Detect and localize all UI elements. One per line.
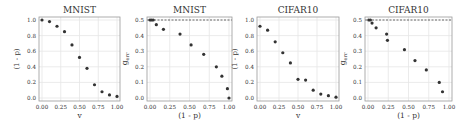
data-point <box>319 93 322 96</box>
chart-title: MNIST <box>173 5 206 15</box>
data-point <box>441 90 444 93</box>
data-point <box>334 96 337 99</box>
x-axis-label: v <box>295 111 301 120</box>
data-point <box>108 93 111 96</box>
data-point <box>162 28 165 31</box>
y-tick-label: 0.4 <box>245 64 254 70</box>
data-point <box>63 30 66 33</box>
y-tick-label: 0.1 <box>135 79 144 85</box>
data-point <box>386 39 389 42</box>
x-tick-label: 0.25 <box>273 104 286 110</box>
data-point <box>220 75 223 78</box>
data-point <box>438 81 441 84</box>
x-tick-label: 0.25 <box>382 104 395 110</box>
data-point <box>327 94 330 97</box>
data-point <box>202 53 205 56</box>
x-tick-label: 0.75 <box>311 104 324 110</box>
data-point <box>78 56 81 59</box>
data-point <box>281 51 284 54</box>
data-point <box>304 78 307 81</box>
y-tick-label: 0.5 <box>135 17 144 23</box>
chart-title: CIFAR10 <box>278 5 319 15</box>
data-point <box>48 20 51 23</box>
y-tick-label: 0.6 <box>245 48 254 54</box>
y-tick-label: 0.6 <box>27 48 36 54</box>
y-tick-label: 0.8 <box>27 33 36 39</box>
y-axis-label: gerr <box>120 52 130 65</box>
data-point <box>413 59 416 62</box>
x-axis-label: v <box>76 111 82 120</box>
data-point <box>85 67 88 70</box>
x-tick-label: 0.00 <box>36 104 49 110</box>
x-tick-label: 1.00 <box>443 104 456 110</box>
x-tick-label: 0.25 <box>55 104 68 110</box>
data-point <box>100 90 103 93</box>
subplot-2: 0.000.250.500.751.000.00.10.20.30.40.5MN… <box>120 5 236 120</box>
y-axis-label: gerr <box>338 52 348 65</box>
figure: 0.000.250.500.751.000.00.20.40.60.81.0MN… <box>0 0 471 124</box>
x-tick-label: 0.75 <box>92 104 105 110</box>
data-point <box>226 87 229 90</box>
data-point <box>312 89 315 92</box>
data-point <box>370 22 373 25</box>
y-tick-label: 0.4 <box>353 33 362 39</box>
chart-canvas: 0.000.250.500.751.000.00.20.40.60.81.0MN… <box>0 0 471 124</box>
x-tick-label: 0.00 <box>362 104 375 110</box>
data-point <box>266 29 269 32</box>
data-point <box>189 43 192 46</box>
y-tick-label: 0.2 <box>353 64 362 70</box>
y-tick-label: 0.2 <box>245 79 254 85</box>
data-point <box>155 23 158 26</box>
subplot-3: 0.000.250.500.751.000.00.20.40.60.81.0CI… <box>231 5 343 120</box>
data-point <box>403 48 406 51</box>
y-tick-label: 0.0 <box>135 95 144 101</box>
y-tick-label: 0.0 <box>27 95 36 101</box>
x-axis-label: (1 - p) <box>178 111 201 120</box>
x-tick-label: 0.25 <box>164 104 177 110</box>
y-tick-label: 0.3 <box>135 48 144 54</box>
data-point <box>40 18 43 21</box>
data-point <box>425 68 428 71</box>
y-tick-label: 0.3 <box>353 48 362 54</box>
y-tick-label: 0.8 <box>245 33 254 39</box>
y-tick-label: 0.0 <box>353 95 362 101</box>
y-tick-label: 0.1 <box>353 79 362 85</box>
y-axis-label: (1 - p) <box>231 48 239 69</box>
chart-title: CIFAR10 <box>388 5 429 15</box>
x-tick-label: 0.75 <box>423 104 436 110</box>
y-tick-label: 1.0 <box>27 17 36 23</box>
data-point <box>178 32 181 35</box>
y-tick-label: 0.4 <box>27 64 36 70</box>
y-axis-label: (1 - p) <box>13 48 21 69</box>
data-point <box>70 43 73 46</box>
data-point <box>296 78 299 81</box>
y-tick-label: 0.2 <box>27 79 36 85</box>
y-tick-label: 0.4 <box>135 33 144 39</box>
y-tick-label: 1.0 <box>245 17 254 23</box>
data-point <box>369 18 372 21</box>
data-point <box>289 61 292 64</box>
data-point <box>385 32 388 35</box>
data-point <box>227 96 230 99</box>
data-point <box>93 83 96 86</box>
y-tick-label: 0.5 <box>353 17 362 23</box>
data-point <box>115 95 118 98</box>
y-tick-label: 0.0 <box>245 95 254 101</box>
data-point <box>152 18 155 21</box>
x-tick-label: 0.50 <box>402 104 415 110</box>
subplot-4: 0.000.250.500.751.000.00.10.20.30.40.5CI… <box>338 5 456 120</box>
x-tick-label: 0.50 <box>183 104 196 110</box>
x-tick-label: 1.00 <box>330 104 343 110</box>
x-tick-label: 0.75 <box>203 104 216 110</box>
data-point <box>215 65 218 68</box>
chart-title: MNIST <box>63 5 96 15</box>
y-tick-label: 0.2 <box>135 64 144 70</box>
x-axis-label: (1 - p) <box>397 111 420 120</box>
x-tick-label: 0.50 <box>73 104 86 110</box>
x-tick-label: 0.00 <box>144 104 157 110</box>
x-tick-label: 1.00 <box>223 104 236 110</box>
x-tick-label: 1.00 <box>111 104 124 110</box>
data-point <box>375 26 378 29</box>
data-point <box>55 25 58 28</box>
subplot-1: 0.000.250.500.751.000.00.20.40.60.81.0MN… <box>13 5 124 120</box>
